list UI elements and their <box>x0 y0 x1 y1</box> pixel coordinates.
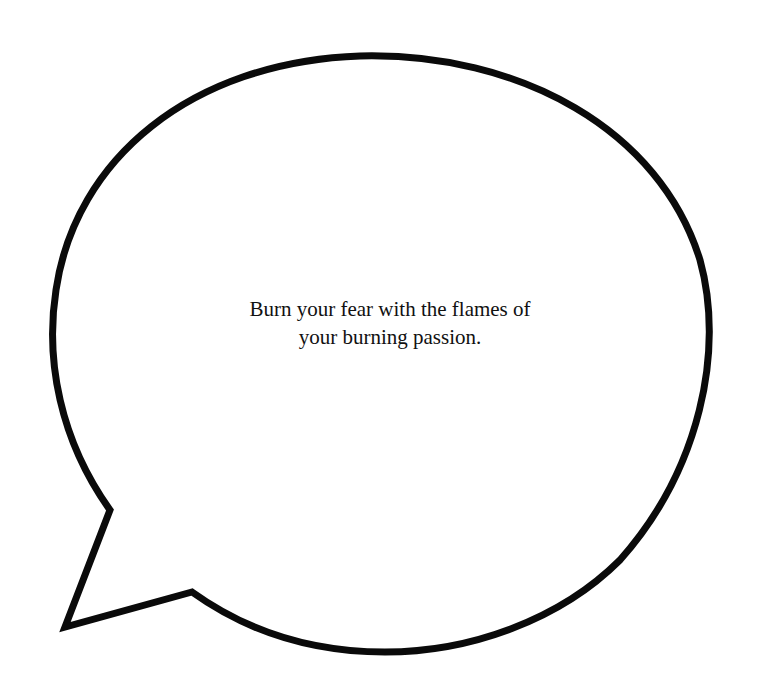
speech-bubble-line-1: Burn your fear with the flames of <box>180 295 600 323</box>
speech-bubble-line-2: your burning passion. <box>180 323 600 351</box>
speech-bubble-outline <box>53 56 710 652</box>
speech-bubble-text: Burn your fear with the flames of your b… <box>180 295 600 351</box>
